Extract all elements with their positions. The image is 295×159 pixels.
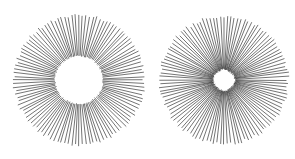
radial-spoke [173, 40, 216, 74]
astroid-burst [159, 16, 289, 144]
radial-spoke [13, 81, 55, 83]
radial-spoke [161, 62, 214, 77]
annulus-burst [13, 14, 145, 146]
radial-spoke [33, 35, 62, 63]
radial-spoke [37, 98, 63, 127]
radial-spoke [23, 45, 58, 67]
radial-spoke [180, 36, 217, 73]
radial-spoke [206, 18, 221, 69]
radial-spoke [183, 30, 217, 73]
radial-spoke [48, 23, 68, 59]
radial-spoke [95, 98, 122, 128]
radial-spoke [37, 32, 64, 62]
radial-spoke [103, 77, 144, 79]
radial-spoke [230, 31, 263, 73]
radial-spoke [15, 77, 55, 79]
radial-spoke [48, 100, 68, 135]
radial-spoke [96, 97, 126, 127]
radial-spoke [72, 15, 76, 56]
radial-spoke [231, 32, 266, 72]
radial-spoke [95, 31, 123, 62]
radial-spoke [161, 82, 214, 94]
radial-spoke [99, 94, 131, 117]
radial-spoke [193, 23, 219, 71]
radial-spoke [97, 96, 128, 123]
radial-spoke [20, 91, 57, 109]
radial-spoke [55, 21, 70, 57]
radial-spoke [100, 92, 135, 112]
radial-spoke [234, 83, 287, 98]
radial-spoke [42, 28, 66, 61]
radial-spoke [171, 86, 216, 114]
radial-spoke [29, 36, 61, 64]
radial-spoke [96, 34, 125, 63]
radial-spoke [92, 101, 113, 134]
radial-spoke [25, 92, 59, 113]
radial-spoke [229, 25, 255, 71]
radial-spoke [80, 16, 82, 56]
radial-spoke [233, 85, 280, 111]
radial-spoke [234, 85, 282, 108]
radial-burst-illustration [0, 0, 295, 159]
radial-spoke [183, 88, 218, 131]
radial-spoke [33, 98, 62, 127]
radial-spoke [97, 37, 128, 65]
radial-spoke [221, 17, 224, 69]
radial-spoke [38, 28, 64, 61]
radial-spoke [81, 15, 85, 56]
radial-spoke [159, 76, 213, 79]
radial-spoke [75, 14, 78, 55]
radial-spoke [99, 46, 134, 68]
radial-spoke [89, 22, 107, 59]
radial-spoke [234, 67, 285, 78]
radial-spoke [38, 99, 64, 132]
figure-canvas [0, 0, 295, 159]
radial-spoke [103, 72, 144, 77]
radial-spoke [87, 19, 100, 57]
radial-spoke [234, 62, 285, 77]
radial-spoke [80, 104, 82, 144]
radial-spoke [102, 87, 143, 99]
